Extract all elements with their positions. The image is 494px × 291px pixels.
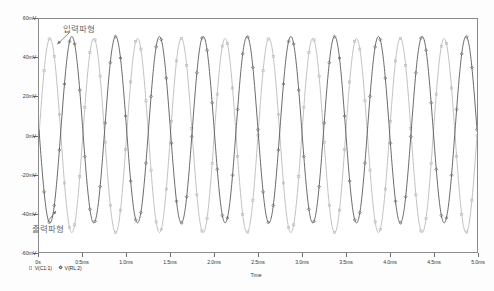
waveform-traces xyxy=(39,19,477,252)
y-tick-label: 40mV xyxy=(23,54,36,60)
legend-label: V(RL:2) xyxy=(65,265,82,271)
x-tick-label: 2.0ms xyxy=(207,259,221,265)
x-tick-label: 4.5ms xyxy=(427,259,441,265)
y-tick-label: -20mV xyxy=(21,172,36,178)
x-tick-mark xyxy=(214,253,215,257)
annotation-output-waveform: 출력파형 xyxy=(32,222,64,234)
x-tick-mark xyxy=(478,253,479,257)
y-tick-label: 0mV xyxy=(26,133,36,139)
plot-area[interactable] xyxy=(38,18,478,253)
x-tick-mark xyxy=(346,253,347,257)
x-tick-label: 1.5ms xyxy=(163,259,177,265)
annotation-input-waveform: 입력파형 xyxy=(63,22,95,34)
x-tick-label: 4.0ms xyxy=(383,259,397,265)
legend-marker-square-icon xyxy=(29,266,32,269)
trace-v-rl-2- xyxy=(39,36,477,222)
x-axis-title: Time xyxy=(251,272,262,278)
x-tick-mark xyxy=(170,253,171,257)
y-tick-label: -40mV xyxy=(21,211,36,217)
x-tick-mark xyxy=(434,253,435,257)
legend-label: V(C1:1) xyxy=(35,265,52,271)
chart-legend[interactable]: V(C1:1)V(RL:2) xyxy=(29,265,82,271)
legend-entry-1[interactable]: V(RL:2) xyxy=(59,265,82,271)
x-tick-label: 1.0ms xyxy=(119,259,133,265)
x-tick-mark xyxy=(126,253,127,257)
y-axis: 60mV40mV20mV0mV-20mV-40mV-60mV xyxy=(0,0,36,291)
y-tick-label: 60mV xyxy=(23,15,36,21)
legend-entry-0[interactable]: V(C1:1) xyxy=(29,265,52,271)
x-tick-mark xyxy=(258,253,259,257)
legend-marker-diamond-icon xyxy=(58,266,63,271)
x-tick-mark xyxy=(302,253,303,257)
x-tick-label: 2.5ms xyxy=(251,259,265,265)
chart-page: 60mV40mV20mV0mV-20mV-40mV-60mV 0s0.5ms1.… xyxy=(0,0,494,291)
x-tick-label: 5.0ms xyxy=(471,259,485,265)
x-tick-mark xyxy=(82,253,83,257)
x-tick-label: 3.5ms xyxy=(339,259,353,265)
x-tick-mark xyxy=(38,253,39,257)
y-tick-label: 20mV xyxy=(23,93,36,99)
x-tick-mark xyxy=(390,253,391,257)
x-tick-label: 3.0ms xyxy=(295,259,309,265)
